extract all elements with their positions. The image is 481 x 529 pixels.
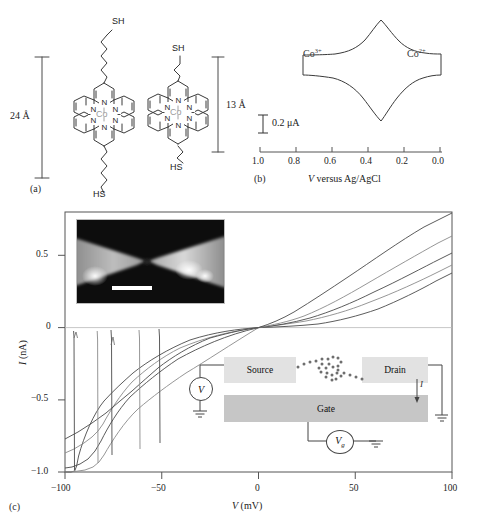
panel-c-x-axis-rest: (mV) [238,500,262,511]
panel-c-y-axis-symbol: I [17,362,28,365]
right-thiol-link-bottom [177,146,183,163]
co2-superscript: 2+ [419,47,426,54]
drain-wiring [428,365,442,415]
device-schematic-inset: Source Drain Gate V Vg I [186,353,448,465]
panel-b-label: (b) [254,173,266,184]
dimension-bar-13 [212,57,224,152]
panel-c-y-ticks [58,255,65,472]
dimension-label-24A: 24 Å [10,110,30,121]
gate-voltage-meter: Vg [326,430,354,454]
panel-c-label: (c) [9,501,20,512]
panel-a-structures: N N N N N N N N N N [0,0,245,205]
cv-trace [303,20,441,121]
panel-b-tick-6: 0.0 [432,156,444,166]
panel-c-x-tick-3: 0 [255,483,260,493]
sem-nanogap-image [77,220,224,303]
right-bottom-thiol-label: HS [170,162,183,172]
dimension-bar-24 [35,57,49,178]
gate-meter-subscript: g [341,441,345,449]
current-scale-bar [258,115,268,133]
panel-b-axis [260,147,442,152]
co3-superscript: 3+ [315,47,322,54]
panel-b-tick-3: 0.6 [324,156,336,166]
panel-b: Co3+ Co2+ 0.2 μA 1.0 0.8 0.6 0.4 0.2 0.0… [245,0,481,205]
left-bottom-thiol-label: HS [93,189,106,199]
left-metal-label: Co [96,109,108,119]
current-scale-label: 0.2 μA [272,117,300,128]
figure-root: N N N N N N N N N N [0,0,481,529]
right-thiol-link-top [174,56,180,81]
panel-c-x-tick-1: −100 [51,483,71,493]
left-top-thiol-label: SH [112,16,125,26]
panel-c-y-axis-title: I (nA) [17,323,28,383]
sem-scale-bar [112,286,152,290]
panel-c-x-axis-title: V (mV) [232,500,262,511]
panel-c-y-tick-3: −0.5 [31,393,48,403]
drain-label: Drain [362,357,428,383]
left-alkyl-chain-bottom [101,146,107,193]
svg-text:N: N [102,123,108,132]
drain-ground-symbol [435,415,448,421]
gate-label: Gate [224,395,428,422]
panel-a: N N N N N N N N N N [0,0,245,205]
svg-text:N: N [187,114,193,123]
panel-b-axis-title: V versus Ag/AgCl [308,173,381,184]
left-alkyl-chain-top [101,30,112,83]
bias-voltage-meter: V [189,377,213,401]
co3-base: Co [303,48,315,59]
panel-a-label: (a) [30,183,41,194]
panel-b-tick-5: 0.2 [396,156,408,166]
dimension-label-13A: 13 Å [226,99,246,110]
co3-annotation: Co3+ [303,47,322,59]
panel-c-y-tick-2: 0 [46,321,51,331]
right-metal-label: Co [170,107,182,117]
panel-c: Source Drain Gate V Vg I 0.5 0 −0.5 −1.0… [0,205,481,529]
panel-c-y-tick-1: 0.5 [36,249,48,259]
svg-text:N: N [113,105,119,114]
panel-c-x-tick-5: 100 [443,483,457,493]
panel-b-tick-1: 1.0 [252,156,264,166]
panel-c-y-tick-4: −1.0 [31,466,48,476]
svg-text:N: N [176,96,182,105]
source-ground-symbol [193,411,207,417]
panel-c-x-tick-2: −50 [151,483,166,493]
panel-c-y-axis-rest: (nA) [17,340,28,361]
panel-b-axis-title-rest: versus Ag/AgCl [314,173,381,184]
right-top-thiol-label: SH [172,43,185,53]
panel-b-tick-4: 0.4 [360,156,372,166]
panel-c-x-tick-4: 50 [349,483,359,493]
sem-nanogap-inset [76,219,225,304]
gate-ground-symbol [369,441,383,447]
svg-text:N: N [113,116,119,125]
current-label: I [420,379,423,389]
source-label: Source [224,357,296,383]
panel-c-x-ticks [65,472,452,479]
gate-meter-label: Vg [335,435,345,449]
svg-text:N: N [176,121,182,130]
bias-meter-label: V [198,384,204,395]
panel-b-tick-2: 0.8 [288,156,300,166]
co2-base: Co [407,48,419,59]
co2-annotation: Co2+ [407,47,426,59]
svg-text:N: N [102,98,108,107]
svg-text:N: N [187,103,193,112]
bridging-molecule [297,356,364,382]
